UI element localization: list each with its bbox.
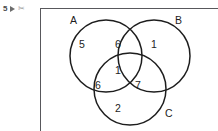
play-triangle-icon[interactable] [10,6,15,12]
page-root: 5 ✂ A B C 5 6 1 1 6 7 2 [0,0,218,131]
circle-set-b [118,20,190,92]
scissors-icon: ✂ [18,5,25,13]
region-value-ac: 6 [91,80,105,91]
venn-circles [44,9,218,131]
region-value-b: 1 [147,39,161,50]
region-value-ab: 6 [111,39,125,50]
region-value-abc: 1 [111,65,125,76]
item-number: 5 [3,5,7,13]
venn-diagram: A B C 5 6 1 1 6 7 2 [44,9,218,131]
set-label-a: A [70,15,77,26]
region-value-a: 5 [75,39,89,50]
set-label-c: C [165,108,173,119]
set-label-b: B [175,15,182,26]
frame-left-rule [40,8,41,131]
region-value-c: 2 [111,103,125,114]
item-marker-strip: 5 ✂ [3,2,37,16]
region-value-bc: 7 [131,80,145,91]
